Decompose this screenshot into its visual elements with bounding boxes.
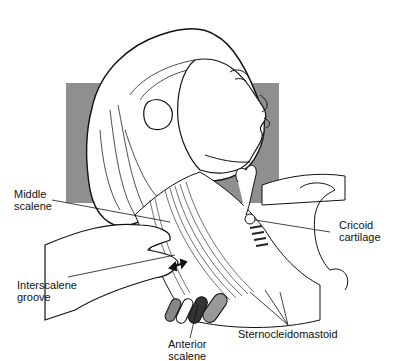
ear bbox=[144, 100, 173, 130]
label-interscalene-groove: Interscalene groove bbox=[17, 279, 77, 303]
label-line: Anterior bbox=[168, 338, 207, 350]
label-middle-scalene: Middle scalene bbox=[14, 188, 52, 212]
label-line: Cricoid bbox=[339, 219, 381, 231]
palpating-hand bbox=[45, 224, 178, 320]
label-line: cartilage bbox=[339, 231, 381, 243]
face bbox=[178, 59, 266, 173]
label-line: Middle bbox=[14, 188, 52, 200]
cricoid-ring bbox=[245, 214, 255, 224]
label-cricoid-cartilage: Cricoid cartilage bbox=[339, 219, 381, 243]
anatomical-illustration bbox=[0, 0, 396, 361]
label-line: scalene bbox=[14, 200, 52, 212]
label-anterior-scalene: Anterior scalene bbox=[168, 338, 207, 361]
label-line: Interscalene bbox=[17, 279, 77, 291]
label-line: scalene bbox=[168, 350, 207, 361]
label-line: groove bbox=[17, 291, 77, 303]
label-sternocleidomastoid: Sternocleidomastoid bbox=[238, 328, 338, 340]
